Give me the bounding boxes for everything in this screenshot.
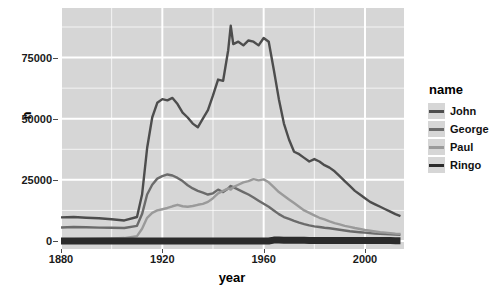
plot-svg <box>60 8 404 249</box>
series-line-ringo <box>61 240 400 241</box>
y-tick-label: 75000 <box>4 52 52 64</box>
x-tick-label: 1880 <box>49 253 73 265</box>
legend-key-swatch-icon <box>428 121 445 137</box>
legend-item-george[interactable]: George <box>428 120 497 138</box>
legend-item-john[interactable]: John <box>428 102 497 120</box>
y-tick-mark <box>53 58 58 59</box>
legend-key-line <box>429 110 444 113</box>
legend-key-line <box>429 146 444 149</box>
legend-item-label: John <box>450 105 476 117</box>
legend-item-label: Paul <box>450 141 473 153</box>
legend-item-label: Ringo <box>450 159 481 171</box>
x-tick-mark <box>162 249 163 253</box>
legend: name JohnGeorgePaulRingo <box>428 82 497 174</box>
x-tick-mark <box>264 249 265 253</box>
legend-key-swatch-icon <box>428 139 445 155</box>
x-tick-label: 1960 <box>251 253 275 265</box>
y-axis-ticks: 0250005000075000 <box>0 0 52 291</box>
chart-container: n 0250005000075000 1880192019602000 year… <box>0 0 497 291</box>
legend-key-line <box>429 164 444 167</box>
legend-key-swatch-icon <box>428 157 445 173</box>
x-tick-label: 1920 <box>150 253 174 265</box>
y-tick-label: 0 <box>4 235 52 247</box>
legend-key-swatch-icon <box>428 103 445 119</box>
legend-item-label: George <box>450 123 489 135</box>
y-tick-label: 25000 <box>4 174 52 186</box>
legend-key-line <box>429 128 444 131</box>
legend-item-paul[interactable]: Paul <box>428 138 497 156</box>
y-tick-mark <box>53 241 58 242</box>
y-tick-label: 50000 <box>4 113 52 125</box>
x-tick-label: 2000 <box>353 253 377 265</box>
legend-title: name <box>428 82 497 97</box>
legend-item-ringo[interactable]: Ringo <box>428 156 497 174</box>
y-tick-mark <box>53 119 58 120</box>
x-tick-mark <box>61 249 62 253</box>
x-tick-mark <box>365 249 366 253</box>
plot-panel <box>60 8 404 249</box>
x-axis-title: year <box>60 270 404 285</box>
y-tick-mark <box>53 180 58 181</box>
